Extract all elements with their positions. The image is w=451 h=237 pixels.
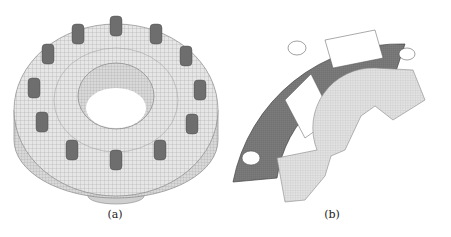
panel-b-section: (b) (225, 0, 451, 237)
caption-a: (a) (95, 208, 135, 221)
section-mesh-illustration (225, 0, 451, 237)
caption-b: (b) (312, 208, 352, 221)
flange-mesh-illustration (0, 0, 230, 237)
panel-a-flange: (a) (0, 0, 230, 237)
